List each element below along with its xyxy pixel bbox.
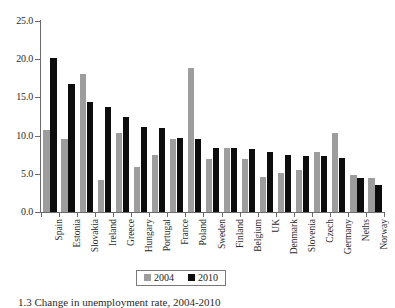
- bar-greece-2010: [123, 117, 129, 213]
- bar-finland-2010: [231, 148, 237, 212]
- bar-hungary-2004: [134, 167, 140, 212]
- bar-neths-2010: [357, 178, 363, 212]
- x-axis-label-sweden: Sweden: [217, 219, 227, 249]
- bar-slovakia-2010: [87, 102, 93, 212]
- bar-czech-2010: [321, 156, 327, 212]
- x-axis-tick: [276, 213, 277, 217]
- bar-finland-2004: [224, 148, 230, 212]
- y-axis-labels: 0.05.010.015.020.025.0: [0, 0, 33, 307]
- y-axis-tick: [35, 97, 41, 98]
- x-axis-label-neths: Neths: [361, 219, 371, 241]
- bar-estonia-2004: [61, 139, 67, 212]
- x-axis-tick: [240, 213, 241, 217]
- bar-group: [242, 21, 255, 212]
- bar-estonia-2010: [68, 84, 74, 212]
- bar-group: [188, 21, 201, 212]
- x-axis-label-uk: UK: [271, 219, 281, 233]
- x-axis-tick: [258, 213, 259, 217]
- legend-swatch-2010-icon: [188, 274, 195, 281]
- bar-group: [350, 21, 363, 212]
- bar-portugal-2010: [159, 128, 165, 212]
- bar-group: [152, 21, 165, 212]
- bar-group: [224, 21, 237, 212]
- bar-group: [278, 21, 291, 212]
- x-axis-tick: [366, 213, 367, 217]
- x-axis-label-slovenia: Slovenia: [307, 219, 317, 252]
- bar-group: [206, 21, 219, 212]
- bar-portugal-2004: [152, 155, 158, 212]
- x-axis-tick: [203, 213, 204, 217]
- x-axis-label-czech: Czech: [325, 219, 335, 243]
- x-axis-label-slovakia: Slovakia: [90, 219, 100, 252]
- chart-legend: 2004 2010: [136, 270, 226, 286]
- x-axis-tick: [131, 213, 132, 217]
- y-axis-tick: [35, 59, 41, 60]
- x-axis-label-france: France: [180, 219, 190, 245]
- y-axis-tick-label: 5.0: [1, 169, 33, 179]
- x-axis-tick: [167, 213, 168, 217]
- x-axis-label-norway: Norway: [379, 219, 389, 250]
- bar-group: [332, 21, 345, 212]
- x-axis-tick: [77, 213, 78, 217]
- y-axis-tick-label: 0.0: [1, 207, 33, 217]
- bar-hungary-2010: [141, 127, 147, 212]
- x-axis-tick: [294, 213, 295, 217]
- y-axis-tick-label: 10.0: [1, 131, 33, 141]
- x-axis-label-finland: Finland: [235, 219, 245, 248]
- bar-group: [61, 21, 74, 212]
- bar-france-2010: [177, 138, 183, 212]
- x-axis-label-germany: Germany: [343, 219, 353, 254]
- x-axis-label-greece: Greece: [126, 219, 136, 246]
- legend-label-2004: 2004: [154, 272, 174, 283]
- bar-group: [170, 21, 183, 212]
- bar-slovenia-2004: [296, 170, 302, 212]
- x-axis-tick: [348, 213, 349, 217]
- bar-group: [43, 21, 56, 212]
- bar-group: [368, 21, 381, 212]
- x-axis-label-denmark: Denmark: [289, 219, 299, 254]
- legend-item-2010: 2010: [188, 272, 218, 283]
- y-axis-tick: [35, 21, 41, 22]
- x-axis-label-spain: Spain: [54, 219, 64, 241]
- legend-label-2010: 2010: [198, 272, 218, 283]
- y-axis-tick: [35, 136, 41, 137]
- x-axis-label-poland: Poland: [198, 219, 208, 245]
- bar-norway-2010: [375, 185, 381, 213]
- bar-belgium-2010: [249, 149, 255, 212]
- bar-germany-2010: [339, 158, 345, 212]
- bar-neths-2004: [350, 175, 356, 212]
- x-axis-label-portugal: Portugal: [162, 219, 172, 251]
- bar-poland-2004: [188, 68, 194, 212]
- x-axis-tick: [185, 213, 186, 217]
- bar-group: [314, 21, 327, 212]
- legend-swatch-2004-icon: [144, 274, 151, 281]
- y-axis-tick-label: 15.0: [1, 92, 33, 102]
- x-axis-tick: [330, 213, 331, 217]
- x-axis-tick: [384, 213, 385, 217]
- bar-slovakia-2004: [80, 74, 86, 212]
- y-axis-tick: [35, 174, 41, 175]
- figure-caption: 1.3 Change in unemployment rate, 2004-20…: [18, 296, 221, 308]
- bar-ireland-2010: [105, 107, 111, 212]
- x-axis-tick: [222, 213, 223, 217]
- bar-slovenia-2010: [303, 156, 309, 212]
- x-axis-label-estonia: Estonia: [72, 219, 82, 248]
- x-axis-label-ireland: Ireland: [108, 219, 118, 246]
- bar-group: [80, 21, 93, 212]
- y-axis-tick-label: 20.0: [1, 54, 33, 64]
- x-axis-tick: [95, 213, 96, 217]
- bar-poland-2010: [195, 139, 201, 212]
- bar-denmark-2010: [285, 155, 291, 212]
- y-axis-tick-label: 25.0: [1, 16, 33, 26]
- legend-item-2004: 2004: [144, 272, 174, 283]
- plot-area: [41, 21, 384, 212]
- bar-spain-2010: [50, 58, 56, 212]
- bar-denmark-2004: [278, 173, 284, 212]
- bar-belgium-2004: [242, 159, 248, 212]
- x-axis-tick: [113, 213, 114, 217]
- bar-group: [98, 21, 111, 212]
- bar-france-2004: [170, 139, 176, 212]
- x-axis-line: [40, 212, 385, 213]
- bar-uk-2010: [267, 152, 273, 212]
